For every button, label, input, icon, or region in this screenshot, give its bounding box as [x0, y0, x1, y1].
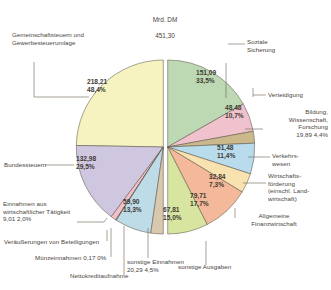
value-verteidigung: 48,48 10,7%	[225, 104, 259, 120]
label-wirtschaftliche-taetigkeit: Einnahmen aus wirtschaftlicher Tätigkeit…	[3, 200, 87, 223]
chart-title: Mrd. DM 451,30	[120, 8, 210, 40]
pie-chart-figure: Mrd. DM 451,30 Gemeinschaftsteuern und G…	[0, 0, 331, 290]
label-bundessteuern: Bundessteuern	[4, 161, 72, 169]
label-verteidigung: Verteidigung	[268, 91, 326, 99]
value-wirtschaftsfoerderung: 32,84 7,3%	[209, 173, 243, 189]
value-bundessteuern: 132,98 29,5%	[76, 155, 118, 171]
value-verkehrswesen: 51,48 11,4%	[217, 144, 251, 160]
leader-gemeinschaftsteuern	[34, 62, 89, 97]
label-sonstige-ausgaben: sonstige Ausgaben	[178, 263, 252, 271]
chart-total-value: 451,30	[155, 32, 175, 39]
label-gemeinschaftsteuern: Gemeinschaftsteuern und Gewerbesteueruml…	[12, 31, 120, 46]
value-nettokreditaufnahme: 59,90 13,3%	[123, 198, 157, 214]
chart-unit-label: Mrd. DM	[153, 16, 178, 23]
value-sonstige-ausgaben: 67,81 15,0%	[163, 206, 197, 222]
value-gemeinschaftsteuern: 218,21 48,4%	[87, 78, 127, 94]
label-muenzeinnahmen: Münzeinnahmen 0,17 0%	[35, 254, 121, 262]
pie-slice-gemeinschaftsteuern-und-gewerbesteuerumlage	[76, 60, 163, 147]
label-soziale-sicherung: Soziale Sicherung	[247, 38, 307, 53]
value-soziale-sicherung: 151,09 33,5%	[196, 69, 236, 85]
label-finanzwirtschaft: Allgemeine Finanzwirtschaft	[240, 212, 308, 227]
label-bildung: Bildung, Wissenschaft, Forschung 19,89 4…	[258, 108, 328, 138]
label-veraeusserungen: Veräußerungen von Beteiligungen	[4, 238, 114, 246]
label-verkehrswesen: Verkehrs- wesen	[272, 152, 326, 167]
label-wirtschaftsfoerderung: Wirtschafts- förderung (einschl. Land- w…	[268, 172, 328, 202]
